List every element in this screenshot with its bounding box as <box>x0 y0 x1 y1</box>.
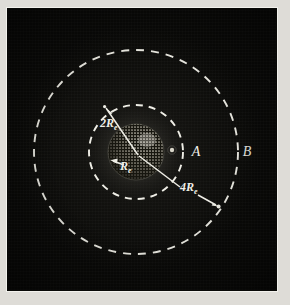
diagram-canvas: A B 2Re Re 4Re <box>8 9 276 290</box>
orbit-a-label: A <box>191 144 201 159</box>
satellite-dot <box>170 148 174 152</box>
figure-plate: A B 2Re Re 4Re <box>0 0 290 305</box>
orbit-b-radius-label: 4Re <box>179 180 198 196</box>
diagram-field: A B 2Re Re 4Re <box>8 9 276 290</box>
orbit-b-label: B <box>243 144 252 159</box>
